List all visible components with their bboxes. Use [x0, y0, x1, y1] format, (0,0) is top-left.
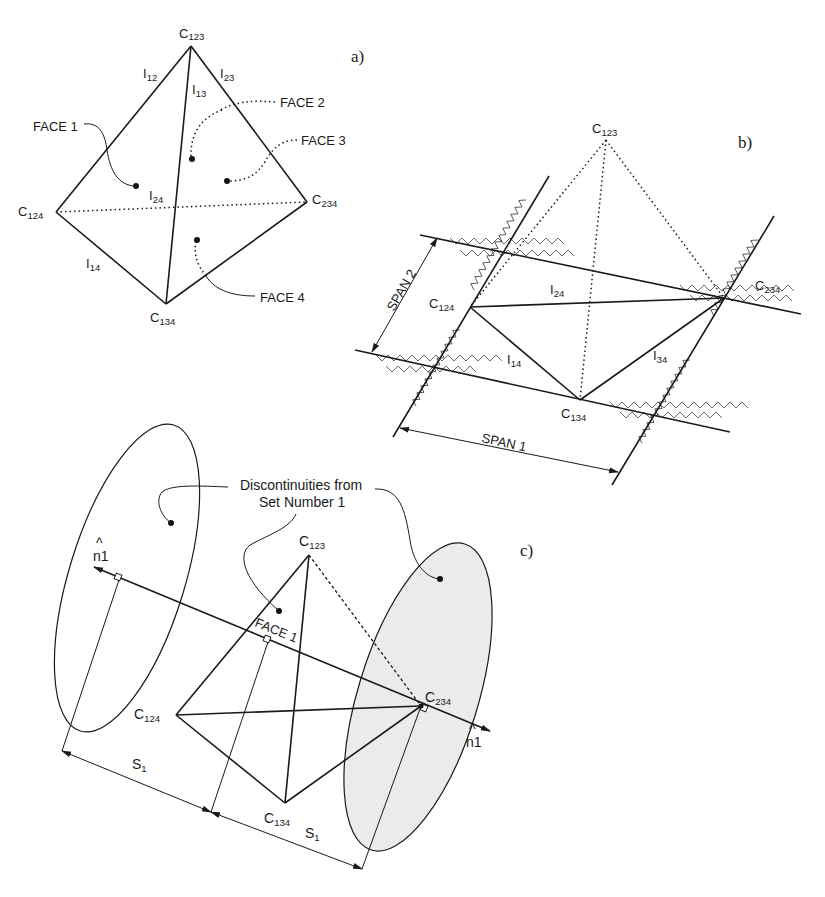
face1-label: FACE 1: [253, 615, 300, 646]
discontinuity-plane-right: [314, 526, 522, 867]
edge-i13-label: I13: [192, 82, 206, 99]
face2-leader-inner: [191, 110, 222, 158]
callout-point-left: [168, 520, 174, 526]
edge-i12-label: I12: [143, 66, 157, 83]
edge-c123-c134: [285, 555, 309, 803]
vertex-c134-label: C134: [561, 406, 586, 423]
face1-leader: [84, 124, 136, 186]
face3-label: FACE 3: [301, 133, 346, 148]
edge-i14-label: I14: [86, 256, 100, 273]
callout-point-right: [437, 576, 443, 582]
normal-hat-bottom: ^: [469, 721, 476, 737]
vertex-c123-label: C123: [299, 533, 325, 551]
vertex-c134-label: C134: [150, 310, 175, 327]
edge-i14-label: I14: [507, 352, 521, 369]
plane-hatching: [376, 197, 794, 443]
edge-i24-hidden: [56, 202, 307, 212]
projection-line-left: [62, 577, 120, 751]
face2-point: [189, 156, 195, 162]
face4-leader-outer: [206, 276, 255, 296]
span2-label: SPAN 2: [384, 267, 420, 314]
panel-a-tetrahedron: a) C123 C124 C234 C134 I12 I23 I13 I24 I…: [18, 26, 364, 327]
callout-leader-middle: [244, 514, 296, 611]
edge-i14: [470, 307, 580, 400]
projection-line-mid: [211, 639, 269, 812]
callout-line2: Set Number 1: [259, 494, 346, 510]
edge-i24: [470, 298, 724, 307]
edge-hidden-123-234: [606, 140, 724, 298]
spacing-s1-label-1: S1: [132, 756, 147, 774]
edge-i13: [166, 46, 191, 304]
edge-i24-label: I24: [550, 282, 564, 299]
edge-i24-label: I24: [149, 188, 163, 205]
callout-point-middle: [276, 608, 282, 614]
right-angle-mark: [263, 635, 271, 643]
face4-leader-inner: [195, 240, 206, 276]
tetrahedral-block-figure: a) C123 C124 C234 C134 I12 I23 I13 I24 I…: [0, 0, 825, 897]
vertex-c124-label: C124: [18, 204, 43, 221]
face1-label: FACE 1: [33, 119, 78, 134]
face3-point: [224, 178, 230, 184]
edge-i14: [56, 212, 166, 304]
vertex-c234-label: C234: [755, 278, 780, 295]
face2-label: FACE 2: [280, 95, 325, 110]
vertex-c123-label: C123: [179, 26, 204, 42]
span1-label: SPAN 1: [480, 430, 527, 454]
right-angle-mark: [114, 573, 122, 581]
vertex-c124-label: C124: [429, 296, 454, 313]
vertex-c234-label: C234: [312, 192, 337, 209]
edge-hidden-123-134: [580, 140, 606, 400]
edge-c124-c134: [176, 715, 285, 803]
edge-hidden-123-124: [470, 140, 606, 307]
edge-i34: [580, 298, 724, 400]
spacing-s1-label-2: S1: [305, 825, 320, 843]
vertex-c134-label: C134: [264, 810, 290, 828]
discontinuity-plane-left: [25, 408, 229, 748]
callout-leader-left: [159, 486, 228, 523]
face4-point: [194, 237, 200, 243]
panel-a-label: a): [351, 47, 364, 66]
vertex-c124-label: C124: [134, 706, 160, 724]
plane-bottom-line: [355, 350, 730, 432]
normal-hat-top: ^: [96, 535, 103, 551]
panel-c-discontinuity-spacing: c) C123 C124 C234 C134 FACE 1 Discontinu…: [25, 408, 533, 869]
panel-b-label: b): [738, 133, 752, 152]
edge-i23: [191, 46, 307, 202]
edge-i34: [166, 202, 307, 304]
vertex-c234-point: [419, 704, 424, 709]
edge-i34-label: I34: [653, 348, 667, 365]
face4-label: FACE 4: [260, 290, 305, 305]
panel-c-label: c): [520, 541, 533, 560]
edge-i23-label: I23: [220, 66, 234, 83]
vertex-c123-label: C123: [592, 121, 617, 138]
panel-b-block-between-planes: b): [355, 121, 801, 485]
face1-point: [133, 183, 139, 189]
face2-leader-outer: [220, 101, 275, 110]
callout-line1: Discontinuities from: [240, 477, 362, 493]
